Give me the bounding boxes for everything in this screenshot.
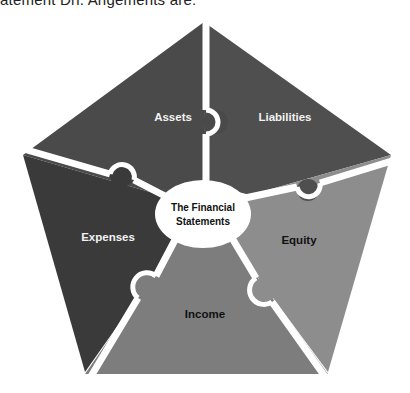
label-liabilities: Liabilities (258, 111, 311, 123)
center-ellipse (155, 180, 251, 248)
label-income: Income (185, 308, 225, 320)
center-label-line1: The Financial (171, 202, 235, 213)
center-label-line2: Statements (176, 216, 230, 227)
label-expenses: Expenses (81, 231, 135, 243)
equity-knob (252, 278, 276, 302)
label-equity: Equity (281, 234, 317, 246)
financial-statements-puzzle-diagram: Assets Liabilities Equity Income Expense… (0, 0, 410, 393)
label-assets: Assets (154, 111, 192, 123)
